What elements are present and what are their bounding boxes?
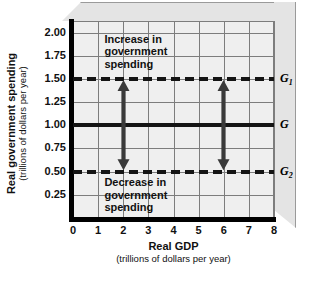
y-tick-label: 0.50	[34, 165, 66, 177]
y-tick-label: 1.00	[34, 118, 66, 130]
x-tick-label: 3	[138, 224, 158, 236]
gridline-horizontal	[73, 56, 274, 57]
arrow-shape	[117, 125, 129, 170]
x-tick-label: 0	[63, 224, 83, 236]
x-axis-title-units: (trillions of dollars per year)	[73, 253, 274, 264]
decrease-arrow-at-6	[216, 125, 231, 171]
gridline-vertical	[274, 21, 275, 218]
gridline-vertical	[174, 21, 175, 218]
y-tick-label: 0.75	[34, 141, 66, 153]
decrease-annotation: Decrease in government spending	[104, 176, 167, 214]
series-label-g1: G1	[280, 71, 293, 87]
gridline-horizontal	[73, 148, 274, 149]
gridline-vertical	[249, 21, 250, 218]
increase-arrow-at-6	[216, 79, 231, 125]
x-tick-label: 1	[88, 224, 108, 236]
plot-border-top	[73, 21, 274, 22]
x-axis-title: Real GDP (trillions of dollars per year)	[73, 240, 274, 264]
y-tick-label: 1.75	[34, 49, 66, 61]
series-line-g	[73, 123, 274, 127]
plot-area	[73, 21, 274, 218]
x-tick-label: 6	[214, 224, 234, 236]
gridline-vertical	[199, 21, 200, 218]
y-axis-title-main: Real government spending	[5, 24, 17, 224]
x-axis-title-main: Real GDP	[73, 240, 274, 252]
y-tick-label: 1.50	[34, 72, 66, 84]
x-tick-label: 4	[164, 224, 184, 236]
chart-3d-top-bevel	[62, 2, 294, 21]
series-line-g1	[73, 77, 274, 81]
chart-figure: Real government spending (trillions of d…	[0, 0, 309, 281]
arrow-shape	[218, 80, 230, 125]
y-tick-label: 2.00	[34, 26, 66, 38]
y-tick-label: 1.25	[34, 95, 66, 107]
increase-annotation: Increase in government spending	[104, 33, 167, 71]
x-tick-label: 5	[189, 224, 209, 236]
gridline-horizontal	[73, 102, 274, 103]
series-line-g2	[73, 170, 274, 174]
gridline-horizontal	[73, 195, 274, 196]
y-tick-labels: 2.001.751.501.251.000.750.500.25	[30, 0, 66, 281]
series-label-g: G	[280, 117, 289, 132]
arrow-shape	[218, 125, 230, 170]
y-axis-title-units: (trillions of dollars per year)	[17, 24, 28, 224]
y-axis-line	[69, 19, 74, 222]
x-axis-line	[69, 217, 276, 222]
chart-3d-right-bevel	[274, 2, 296, 228]
gridline-horizontal	[73, 33, 274, 34]
plot-border-right	[273, 21, 274, 218]
decrease-arrow-at-2	[116, 125, 131, 171]
x-tick-label: 8	[264, 224, 284, 236]
y-tick-label: 0.25	[34, 188, 66, 200]
y-axis-title: Real government spending (trillions of d…	[5, 24, 28, 224]
x-tick-label: 7	[239, 224, 259, 236]
gridline-vertical	[98, 21, 99, 218]
x-tick-label: 2	[113, 224, 133, 236]
arrow-shape	[117, 80, 129, 125]
series-label-g2: G2	[280, 164, 293, 180]
increase-arrow-at-2	[116, 79, 131, 125]
